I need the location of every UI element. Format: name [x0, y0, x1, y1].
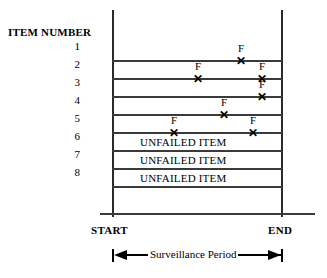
period-right-cap	[281, 249, 283, 262]
start-axis-label: START	[91, 224, 128, 236]
item-label-4: 4	[56, 94, 80, 106]
item-line-4	[112, 114, 282, 116]
failure-label-5-1: F	[171, 115, 177, 126]
item-label-2: 2	[56, 58, 80, 70]
end-axis-label: END	[268, 224, 292, 236]
item-label-8: 8	[56, 166, 80, 178]
item-line-8	[112, 186, 282, 188]
failure-label-1-1: F	[238, 43, 244, 54]
failure-marker-4-1: ✕	[219, 109, 229, 121]
failure-marker-1-1: ✕	[236, 55, 246, 67]
unfailed-item-text-8: UNFAILED ITEM	[140, 172, 226, 184]
time-axis-line	[100, 213, 315, 215]
failure-marker-5-2: ✕	[248, 127, 258, 139]
item-label-1: 1	[56, 40, 80, 52]
item-line-7	[112, 168, 282, 170]
period-right-arrowhead-icon	[268, 250, 281, 260]
failure-label-2-2: F	[259, 61, 265, 72]
surveillance-period-timeline-figure: ITEM NUMBER 1 2 3 4 5 6 7 8 F ✕ F ✕ F ✕ …	[0, 0, 327, 278]
failure-label-4-1: F	[221, 97, 227, 108]
failure-label-5-2: F	[250, 115, 256, 126]
failure-label-3-1: F	[259, 79, 265, 90]
failure-label-2-1: F	[195, 61, 201, 72]
unfailed-item-text-7: UNFAILED ITEM	[140, 154, 226, 166]
item-line-6	[112, 150, 282, 152]
item-label-3: 3	[56, 76, 80, 88]
item-label-6: 6	[56, 130, 80, 142]
surveillance-period-label: Surveillance Period	[148, 248, 238, 260]
unfailed-item-text-6: UNFAILED ITEM	[140, 136, 226, 148]
item-label-7: 7	[56, 148, 80, 160]
item-number-axis-title: ITEM NUMBER	[8, 26, 91, 38]
failure-marker-2-1: ✕	[193, 73, 203, 85]
item-label-5: 5	[56, 112, 80, 124]
failure-marker-3-1: ✕	[257, 91, 267, 103]
